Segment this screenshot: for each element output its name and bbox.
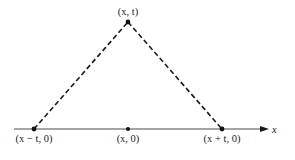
diagram-canvas: x (x, t) (x − t, 0) (x, 0) (x + t, 0): [0, 0, 295, 160]
apex-point: [126, 20, 131, 25]
x-axis-arrowhead-icon: [260, 126, 269, 132]
left-dashed-edge: [34, 22, 128, 129]
center-point-label: (x, 0): [117, 133, 140, 145]
right-dashed-edge: [128, 22, 222, 129]
right-point: [220, 127, 225, 132]
left-point: [32, 127, 37, 132]
right-point-label: (x + t, 0): [204, 133, 241, 145]
x-axis-label: x: [271, 124, 277, 135]
apex-label: (x, t): [118, 6, 139, 18]
left-point-label: (x − t, 0): [16, 133, 53, 145]
center-point: [126, 127, 130, 131]
